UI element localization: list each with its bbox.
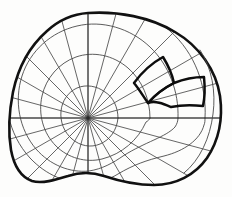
spoke-75deg: [88, 0, 127, 118]
center-origin-dot: [86, 116, 89, 119]
highlighted-chambers: [134, 57, 205, 107]
highlight-cell-b: [148, 77, 205, 107]
spoke-150deg: [0, 43, 88, 118]
spoke-195deg: [0, 118, 88, 157]
spoke-255deg: [49, 118, 88, 197]
spoke-330deg: [88, 118, 218, 193]
shell-diagram-svg: [0, 0, 232, 197]
spoke-165deg: [0, 79, 88, 118]
spoke-15deg: [88, 79, 232, 118]
shell-diagram-figure: [0, 0, 232, 197]
spoke-45deg: [88, 12, 194, 118]
spoke-135deg: [0, 12, 88, 118]
